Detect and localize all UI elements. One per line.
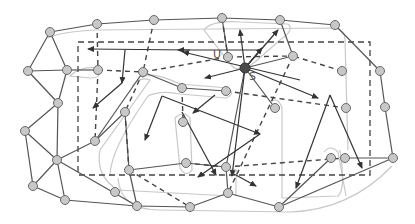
node-n38 — [381, 103, 390, 112]
solid-edge — [279, 158, 393, 207]
node-n22 — [179, 118, 188, 127]
arrow — [240, 30, 245, 68]
node-n9 — [94, 66, 103, 75]
solid-edge — [222, 18, 280, 20]
node-n19 — [342, 104, 351, 113]
solid-edge — [28, 32, 50, 71]
node-n1 — [46, 28, 55, 37]
solid-edge — [58, 70, 67, 103]
solid-edge — [57, 141, 95, 160]
node-n5 — [276, 16, 285, 25]
solid-edge — [97, 20, 154, 24]
solid-edge — [65, 200, 137, 206]
solid-edge — [57, 103, 58, 160]
node-n36 — [341, 154, 350, 163]
solid-edge — [129, 163, 186, 170]
node-n12 — [224, 53, 233, 62]
node-n6 — [331, 21, 340, 30]
network-diagram: U S — [0, 0, 415, 224]
solid-edge — [245, 56, 293, 68]
arrow — [234, 174, 256, 186]
solid-edge — [385, 107, 393, 158]
node-n26 — [61, 196, 70, 205]
solid-edge — [25, 131, 33, 186]
arrow — [162, 96, 260, 134]
arrow — [93, 83, 122, 108]
solid-edge — [279, 158, 331, 207]
node-n25 — [29, 182, 38, 191]
label-s: S — [249, 70, 256, 83]
node-n3 — [150, 16, 159, 25]
arrow — [296, 95, 330, 188]
dashed-edge — [293, 56, 342, 71]
solid-edge — [95, 72, 143, 141]
node-n29 — [182, 159, 191, 168]
solid-edge — [154, 18, 222, 20]
arrow — [88, 49, 190, 50]
dashed-edge — [182, 88, 183, 122]
dashed-edge — [97, 24, 98, 70]
solid-edge — [28, 70, 67, 71]
solid-edge — [335, 25, 380, 71]
node-n39 — [389, 154, 398, 163]
solid-edge — [33, 160, 57, 186]
node-n33 — [224, 189, 233, 198]
node-n20 — [121, 108, 130, 117]
node-n35 — [327, 154, 336, 163]
solid-edge — [182, 88, 226, 91]
arrow — [145, 96, 162, 140]
node-n37 — [376, 67, 385, 76]
label-u: U — [213, 48, 221, 61]
node-n23 — [21, 127, 30, 136]
solid-edge — [25, 131, 57, 160]
solid-edge — [226, 68, 245, 167]
node-n7 — [24, 67, 33, 76]
node-n21 — [91, 137, 100, 146]
node-n2 — [93, 20, 102, 29]
node-n11 — [54, 99, 63, 108]
solid-edge — [228, 193, 279, 207]
node-n24 — [53, 156, 62, 165]
node-n31 — [186, 203, 195, 212]
dashed-edge — [98, 70, 143, 72]
node-n15 — [178, 84, 187, 93]
solid-edge — [57, 160, 65, 200]
arrow — [193, 95, 215, 113]
dashed-edge — [125, 72, 143, 112]
solid-edge — [50, 32, 67, 70]
node-n28 — [125, 166, 134, 175]
node-n30 — [133, 202, 142, 211]
nodes — [21, 14, 398, 212]
solid-edge — [25, 103, 58, 131]
arrow — [232, 68, 245, 176]
solid-edge — [33, 186, 65, 200]
node-n18 — [338, 67, 347, 76]
node-n10 — [139, 68, 148, 77]
node-n14 — [289, 52, 298, 61]
solid-edge — [137, 206, 190, 207]
dashed-edge — [143, 20, 154, 72]
node-n27 — [111, 188, 120, 197]
node-n32 — [222, 163, 231, 172]
arrow — [205, 68, 245, 78]
node-n16 — [222, 87, 231, 96]
node-n34 — [275, 203, 284, 212]
solid-edge — [28, 71, 58, 103]
node-n17 — [271, 104, 280, 113]
arrow — [122, 50, 125, 83]
node-n8 — [63, 66, 72, 75]
solid-edge — [380, 71, 385, 107]
node-n4 — [218, 14, 227, 23]
